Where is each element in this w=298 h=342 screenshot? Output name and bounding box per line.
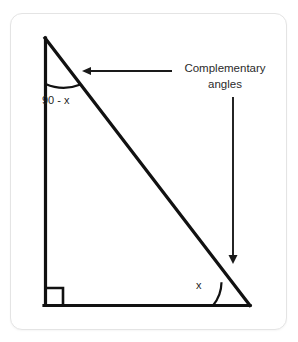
bottom-angle-label: x — [196, 279, 202, 291]
top-angle-arc — [46, 84, 81, 88]
callout-vertical-arrow-head — [229, 255, 238, 264]
callout-horizontal-arrow-head — [82, 67, 91, 75]
bottom-angle-arc — [213, 282, 222, 305]
callout-label-line1: Complementary — [184, 62, 265, 74]
top-angle-label: 90 - x — [42, 94, 70, 106]
right-angle-mark — [46, 288, 64, 306]
callout-label-line2: angles — [208, 78, 242, 90]
complementary-angles-figure: 90 - x x Complementary angles — [0, 0, 298, 342]
